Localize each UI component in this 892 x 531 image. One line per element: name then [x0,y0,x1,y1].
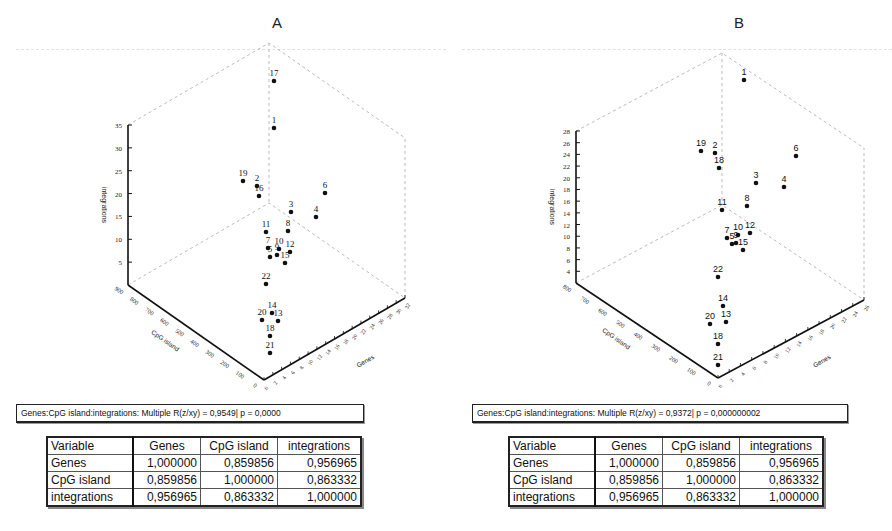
data-point-label: 3 [753,170,758,180]
data-point-label: 9 [275,242,280,252]
cpg-tick-label: 600 [159,317,170,327]
genes-tick-label: 18 [817,328,825,336]
z-tick-label: 10 [563,233,571,241]
table-row: Genes 1,000000 0,859856 0,956965 [509,455,823,472]
genes-tick-label: 10 [772,352,780,360]
data-point-label: 20 [705,311,715,321]
data-point-label: 2 [712,140,717,150]
z-tick-label: 35 [115,122,123,130]
table-row: integrations 0,956965 0,863332 1,000000 [47,489,361,507]
data-point [742,78,747,83]
row-label: CpG island [509,472,595,489]
data-point [268,334,273,339]
data-point [241,179,246,184]
data-point [708,322,713,327]
box-frame-top [128,43,405,138]
table-header-row: Variable Genes CpG island integrations [47,437,361,455]
table-cell: 0,859856 [595,472,663,489]
cpg-tick-label: 200 [220,359,231,369]
data-point-label: 2 [255,173,260,183]
genes-tick-label: 12 [784,346,792,354]
header-cell: Genes [133,437,201,455]
scatter-3d-plot: 5101520253035integrations010020030040050… [0,0,446,400]
data-point-label: 8 [744,193,749,203]
cpg-tick-label: 500 [615,319,626,329]
genes-tick-label: 2 [272,380,279,386]
data-point [716,275,721,280]
z-tick-label: 8 [567,245,571,253]
genes-tick-label: 8 [762,359,769,365]
data-point-label: 22 [262,271,271,281]
regression-summary: Genes:CpG island:integrations: Multiple … [16,404,364,423]
data-point-label: 4 [314,204,319,214]
genes-tick-label: 24 [368,322,376,330]
genes-axis-label: Genes [355,353,376,369]
data-point-label: 6 [323,180,328,190]
row-label: integrations [509,489,595,507]
header-cell: Variable [47,437,133,455]
z-tick-label: 26 [563,140,571,148]
genes-tick-label: 30 [394,307,402,315]
data-point [286,229,291,234]
data-point-label: 22 [713,264,723,274]
data-point-label: 20 [258,307,268,317]
data-point-label: 11 [717,197,726,207]
table-row: Genes 1,000000 0,859856 0,956965 [47,455,361,472]
panel-b: B 46810121416182022242628integrations010… [446,0,892,531]
data-point [272,126,277,131]
data-point [699,149,704,154]
data-point [272,79,277,84]
cpg-tick-label: 400 [189,338,200,348]
cpg-tick-label: 300 [204,349,215,359]
cpg-tick-label: 100 [235,370,246,380]
box-frame-top [576,53,864,148]
data-point-label: 1 [741,67,746,77]
z-tick-label: 6 [567,257,571,265]
data-point [264,282,269,287]
data-point [730,242,735,247]
data-point-label: 12 [745,220,755,230]
table-cell: 0,859856 [133,472,201,489]
genes-tick-label: 22 [840,316,848,324]
correlation-table: Variable Genes CpG island integrations G… [508,436,824,507]
data-point-label: 18 [714,155,724,165]
cpg-tick-label: 800 [562,283,573,293]
data-point [276,319,281,324]
header-cell: CpG island [663,437,740,455]
genes-tick-label: 2 [728,377,735,383]
table-cell: 0,863332 [201,489,278,507]
table-row: CpG island 0,859856 1,000000 0,863332 [509,472,823,489]
z-tick-label: 16 [563,198,571,206]
cpg-tick-label: 0 [706,380,712,387]
data-point-label: 5 [268,244,273,254]
data-point-label: 6 [793,143,798,153]
z-tick-label: 28 [563,128,571,136]
header-cell: integrations [278,437,362,455]
data-point-label: 3 [289,199,294,209]
cpg-tick-label: 400 [633,331,644,341]
genes-tick-label: 12 [315,353,323,361]
header-cell: integrations [740,437,824,455]
correlation-table: Variable Genes CpG island integrations G… [46,436,362,507]
cpg-tick-label: 700 [144,306,155,316]
genes-tick-label: 10 [306,358,314,366]
header-cell: Genes [595,437,663,455]
data-point [754,181,759,186]
data-point-label: 11 [262,219,271,229]
table-row: CpG island 0,859856 1,000000 0,863332 [47,472,361,489]
genes-tick-label: 22 [359,328,367,336]
genes-tick-label: 6 [289,370,296,376]
box-frame-floor [576,205,864,300]
z-tick-label: 25 [115,168,123,176]
genes-tick-label: 14 [324,348,332,356]
genes-tick-label: 32 [403,302,411,310]
data-point [794,154,799,159]
z-tick-label: 15 [115,213,123,221]
data-point-label: 21 [713,352,723,362]
row-label: integrations [47,489,133,507]
cpg-tick-label: 500 [174,328,185,338]
z-tick-label: 12 [563,222,571,230]
z-tick-label: 14 [563,210,571,218]
data-point-label: 16 [255,183,265,193]
table-cell: 1,000000 [595,455,663,472]
